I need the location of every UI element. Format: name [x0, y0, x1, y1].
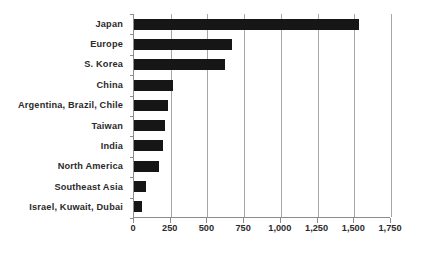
- category-label-slot: Southeast Asia: [0, 177, 128, 197]
- bar-slot: [134, 176, 390, 196]
- category-label: Europe: [90, 40, 123, 49]
- category-label: Japan: [96, 20, 123, 29]
- category-label: Taiwan: [91, 122, 123, 131]
- bar: [134, 80, 173, 91]
- bar: [134, 181, 146, 192]
- bar: [134, 100, 168, 111]
- value-axis-tick-label: 1,500: [342, 224, 365, 233]
- gridline: [391, 14, 392, 217]
- bar-chart: JapanEuropeS. KoreaChinaArgentina, Brazi…: [0, 0, 422, 260]
- category-label-slot: Argentina, Brazil, Chile: [0, 96, 128, 116]
- category-label-slot: China: [0, 75, 128, 95]
- category-label: India: [101, 142, 123, 151]
- category-axis: JapanEuropeS. KoreaChinaArgentina, Brazi…: [0, 14, 128, 218]
- bar: [134, 120, 165, 131]
- category-label: Israel, Kuwait, Dubai: [29, 203, 123, 212]
- bar-slot: [134, 95, 390, 115]
- plot-area: [133, 14, 390, 218]
- bar: [134, 161, 159, 172]
- category-label: Southeast Asia: [54, 183, 123, 192]
- bar-slot: [134, 156, 390, 176]
- bar-slot: [134, 34, 390, 54]
- value-axis-tick-label: 500: [199, 224, 214, 233]
- bar: [134, 19, 359, 30]
- value-axis-tick-label: 1,750: [379, 224, 402, 233]
- category-label-slot: Israel, Kuwait, Dubai: [0, 198, 128, 218]
- category-label-slot: Europe: [0, 34, 128, 54]
- value-axis-tick-label: 1,250: [305, 224, 328, 233]
- bar-slot: [134, 136, 390, 156]
- category-label-slot: S. Korea: [0, 55, 128, 75]
- bar-series: [134, 14, 390, 217]
- bar-slot: [134, 55, 390, 75]
- bar: [134, 39, 232, 50]
- value-axis-tick-label: 1,000: [268, 224, 291, 233]
- category-label-slot: Japan: [0, 14, 128, 34]
- bar-slot: [134, 197, 390, 217]
- category-label-slot: Taiwan: [0, 116, 128, 136]
- bar: [134, 59, 225, 70]
- category-label: China: [97, 81, 123, 90]
- bar: [134, 201, 142, 212]
- value-axis-labels: 02505007501,0001,2501,5001,750: [133, 224, 390, 240]
- value-axis-tick-label: 750: [235, 224, 250, 233]
- value-axis-tick-label: 0: [130, 224, 135, 233]
- category-label: North America: [58, 162, 123, 171]
- bar-slot: [134, 14, 390, 34]
- value-axis-tick-label: 250: [162, 224, 177, 233]
- bar-slot: [134, 115, 390, 135]
- category-label-slot: North America: [0, 157, 128, 177]
- category-label-slot: India: [0, 136, 128, 156]
- bar-slot: [134, 75, 390, 95]
- category-label: Argentina, Brazil, Chile: [18, 101, 123, 110]
- category-label: S. Korea: [84, 60, 123, 69]
- bar: [134, 140, 163, 151]
